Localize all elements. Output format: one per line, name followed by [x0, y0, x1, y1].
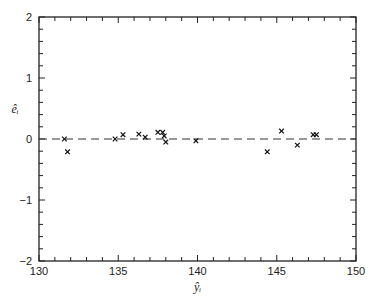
data-point-x-marker: [113, 137, 118, 142]
y-tick-label: 2: [26, 11, 32, 23]
x-tick-label: 135: [109, 265, 127, 277]
data-point-x-marker: [137, 132, 142, 137]
x-axis-label: ŷᵢ: [193, 280, 201, 294]
data-point-x-marker: [121, 132, 126, 137]
data-point-x-marker: [65, 150, 70, 155]
y-tick-label: 0: [26, 133, 32, 145]
data-point-x-marker: [279, 129, 284, 134]
data-point-x-marker: [314, 132, 319, 137]
y-tick-label: −1: [19, 194, 32, 206]
data-point-x-marker: [265, 150, 270, 155]
y-tick-label: −2: [19, 255, 32, 267]
data-point-x-marker: [164, 140, 169, 145]
x-tick-label: 140: [188, 265, 206, 277]
y-tick-label: 1: [26, 72, 32, 84]
data-point-x-marker: [295, 143, 300, 148]
x-tick-label: 145: [268, 265, 286, 277]
residual-scatter-plot: 130135140145150−2−1012ŷᵢêᵢ: [0, 0, 373, 301]
x-tick-label: 150: [347, 265, 365, 277]
x-tick-label: 130: [30, 265, 48, 277]
y-axis-label: êᵢ: [11, 102, 18, 116]
data-point-x-marker: [156, 130, 161, 135]
